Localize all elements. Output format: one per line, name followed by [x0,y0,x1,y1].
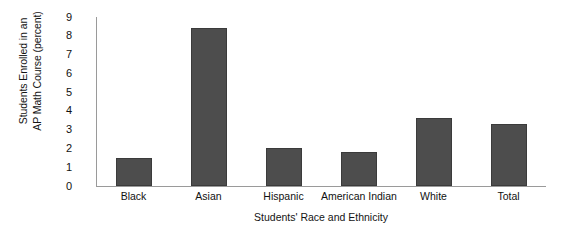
x-axis-label-total: Total [471,190,546,202]
bar-white [416,118,452,186]
bar-hispanic [266,148,302,186]
x-axis-label-white: White [396,190,471,202]
bar-american-indian [341,152,377,186]
bar-black [116,158,152,186]
x-axis-label-hispanic: Hispanic [246,190,321,202]
x-axis-label-asian: Asian [171,190,246,202]
x-axis-title: Students' Race and Ethnicity [96,211,546,223]
bar-chart-figure: Students Enrolled in an AP Math Course (… [0,0,562,241]
bar-asian [191,28,227,186]
bar-series [0,0,562,241]
x-axis-label-black: Black [96,190,171,202]
x-axis-label-american-indian: American Indian [321,190,396,202]
bar-total [491,124,527,186]
